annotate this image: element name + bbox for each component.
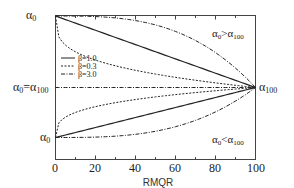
region-label-upper: α0>α100 (212, 27, 244, 41)
y-label-top: α0 (26, 8, 36, 23)
right-label-alpha100: α100 (259, 80, 277, 95)
legend: β=1.0 β=0.3 β=3.0 (61, 54, 97, 79)
alpha-vs-rmqr-chart: α0 α0=α100 α0 α100 α0>α100 α0<α100 0 20 … (0, 0, 294, 188)
x-tick-labels: 0 20 40 60 80 100 (52, 161, 265, 175)
x-tick-label-0: 0 (52, 161, 58, 175)
legend-label-beta-3.0: β=3.0 (78, 70, 97, 79)
x-tick-label-60: 60 (169, 161, 181, 175)
x-tick-label-80: 80 (209, 161, 221, 175)
x-tick-label-40: 40 (129, 161, 141, 175)
region-label-lower: α0<α100 (212, 133, 244, 147)
x-tick-label-20: 20 (89, 161, 101, 175)
x-tick-label-100: 100 (247, 161, 265, 175)
curve-increasing-beta-1 (56, 88, 256, 138)
x-axis-title: RMQR (143, 177, 174, 188)
y-label-middle: α0=α100 (13, 80, 48, 95)
y-label-bottom: α0 (40, 130, 50, 145)
